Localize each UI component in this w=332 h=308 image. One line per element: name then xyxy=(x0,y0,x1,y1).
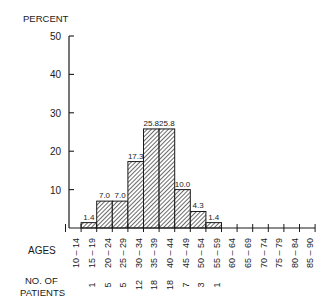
x-tick-label: 55 – 59 xyxy=(212,238,222,268)
x-tick-label: 35 – 39 xyxy=(149,238,159,268)
histogram-chart: 1020304050 1.47.07.017.325.825.810.04.31… xyxy=(0,0,332,308)
y-tick-label: 10 xyxy=(50,185,62,196)
patient-count: 3 xyxy=(196,282,206,287)
bar xyxy=(97,201,113,228)
x-axis: 10 – 1415 – 1920 – 2425 – 2930 – 3435 – … xyxy=(66,224,316,268)
y-tick-label: 20 xyxy=(50,146,62,157)
x-tick-label: 60 – 64 xyxy=(227,238,237,268)
patient-count: 12 xyxy=(134,280,144,290)
x-tick-label: 70 – 74 xyxy=(259,238,269,268)
patient-count: 1 xyxy=(87,282,97,287)
x-tick-label: 75 – 79 xyxy=(274,238,284,268)
y-axis: 1020304050 xyxy=(50,31,74,228)
patient-count: 5 xyxy=(103,282,113,287)
patients-row: 155121818731 xyxy=(87,280,222,290)
patient-count: 18 xyxy=(165,280,175,290)
patient-count: 1 xyxy=(212,282,222,287)
bar xyxy=(206,223,222,228)
x-tick-label: 40 – 44 xyxy=(165,238,175,268)
bar-value-label: 7.0 xyxy=(115,191,127,200)
x-tick-label: 10 – 14 xyxy=(71,238,81,268)
bar-value-label: 1.4 xyxy=(208,213,220,222)
bar xyxy=(128,162,144,228)
bars: 1.47.07.017.325.825.810.04.31.4 xyxy=(81,119,221,228)
bar xyxy=(175,190,191,228)
patients-label-line1: NO. OF xyxy=(25,275,58,286)
x-tick-label: 20 – 24 xyxy=(103,238,113,268)
x-tick-label: 45 – 49 xyxy=(181,238,191,268)
bar xyxy=(112,201,128,228)
x-tick-label: 65 – 69 xyxy=(243,238,253,268)
bar-value-label: 10.0 xyxy=(175,180,191,189)
bar-value-label: 7.0 xyxy=(99,191,111,200)
bar xyxy=(190,211,206,228)
bar-value-label: 17.3 xyxy=(128,152,144,161)
y-tick-label: 30 xyxy=(50,108,62,119)
x-tick-label: 30 – 34 xyxy=(134,238,144,268)
x-tick-label: 80 – 84 xyxy=(290,238,300,268)
bar-value-label: 4.3 xyxy=(193,201,205,210)
patients-label-line2: PATIENTS xyxy=(20,287,65,298)
y-tick-label: 50 xyxy=(50,31,62,42)
bar xyxy=(144,129,160,228)
patient-count: 7 xyxy=(181,282,191,287)
x-tick-label: 15 – 19 xyxy=(87,238,97,268)
bar-value-label: 25.8 xyxy=(159,119,175,128)
patient-count: 5 xyxy=(118,282,128,287)
x-tick-label: 25 – 29 xyxy=(118,238,128,268)
ages-label: AGES xyxy=(28,245,56,256)
bar xyxy=(81,223,97,228)
patient-count: 18 xyxy=(149,280,159,290)
x-tick-label: 50 – 54 xyxy=(196,238,206,268)
y-axis-label: PERCENT xyxy=(23,13,69,24)
bar-value-label: 25.8 xyxy=(144,119,160,128)
y-tick-label: 40 xyxy=(50,69,62,80)
bar xyxy=(159,129,175,228)
bar-value-label: 1.4 xyxy=(83,213,95,222)
x-tick-label: 85 – 90 xyxy=(305,238,315,268)
